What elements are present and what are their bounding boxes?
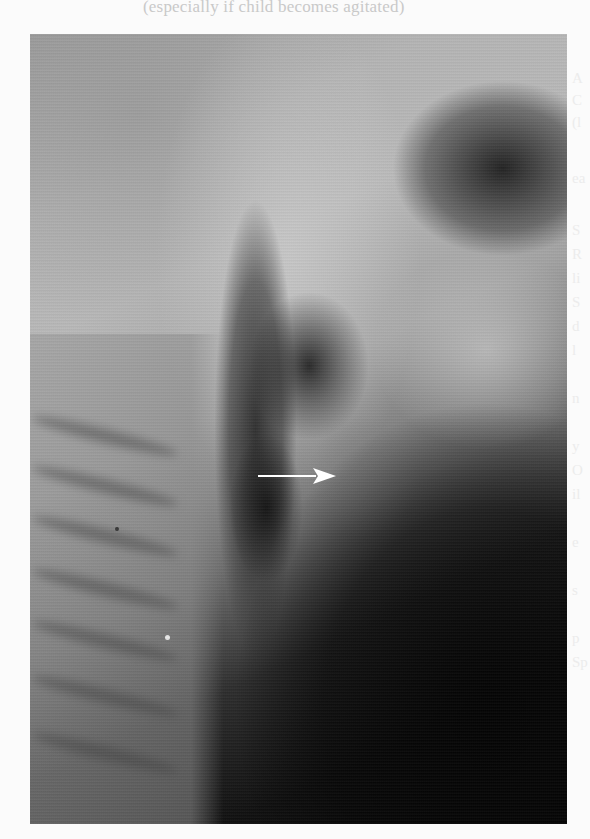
lateral-neck-radiograph <box>30 34 567 824</box>
bleed-char: l <box>572 342 576 359</box>
bleed-char: R <box>572 246 582 263</box>
bleed-char: li <box>572 270 580 287</box>
film-grain <box>30 34 567 824</box>
bleed-char: y <box>572 438 580 455</box>
bleed-char: d <box>572 318 580 335</box>
bleed-char: A <box>572 70 583 87</box>
bleed-char: n <box>572 390 580 407</box>
bleed-char: s <box>572 582 578 599</box>
page-caption-fragment: (especially if child becomes agitated) <box>143 0 405 17</box>
arrow-icon <box>258 465 336 487</box>
bleed-char: Sp <box>572 654 588 671</box>
bleed-char: e <box>572 534 579 551</box>
bleed-char: (l <box>572 114 581 131</box>
bleed-char: ea <box>572 170 585 187</box>
bleed-char: C <box>572 92 582 109</box>
bleed-char: S <box>572 222 580 239</box>
bleed-char: S <box>572 294 580 311</box>
bleed-char: p <box>572 630 580 647</box>
bleed-char: O <box>572 462 583 479</box>
bleed-char: il <box>572 486 580 503</box>
